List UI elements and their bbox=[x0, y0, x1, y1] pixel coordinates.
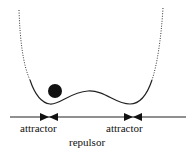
left-attractor-arrows-icon bbox=[40, 113, 58, 121]
potential-curve-right-dotted bbox=[152, 8, 163, 80]
left-attractor-label: attractor bbox=[20, 122, 57, 134]
ball bbox=[48, 84, 62, 98]
right-attractor-arrows-icon bbox=[124, 113, 142, 121]
repulsor-label: repulsor bbox=[69, 136, 105, 148]
potential-curve-left-dotted bbox=[19, 10, 30, 80]
right-attractor-label: attractor bbox=[106, 122, 143, 134]
